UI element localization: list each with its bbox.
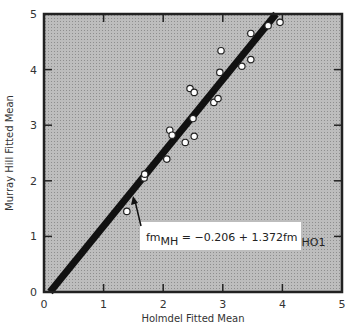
data-point <box>182 139 188 145</box>
scatter-chart: fmMH = −0.206 + 1.372fmHO1 Holmdel Fitte… <box>0 0 357 328</box>
data-point <box>164 156 170 162</box>
x-tick-label: 1 <box>100 298 107 311</box>
x-tick-label: 4 <box>279 298 286 311</box>
data-point <box>248 30 254 36</box>
y-axis-title: Murray Hill Fitted Mean <box>4 95 15 211</box>
data-point <box>191 133 197 139</box>
data-point <box>142 171 148 177</box>
x-tick-label: 3 <box>219 298 226 311</box>
plot-area <box>44 14 342 292</box>
y-tick-label: 0 <box>30 286 37 299</box>
data-point <box>215 95 221 101</box>
x-tick-label: 2 <box>160 298 167 311</box>
y-tick-label: 5 <box>30 8 37 21</box>
y-tick-label: 1 <box>30 230 37 243</box>
data-point <box>190 115 196 121</box>
data-point <box>239 63 245 69</box>
y-tick-label: 2 <box>30 175 37 188</box>
x-tick-label: 0 <box>41 298 48 311</box>
data-point <box>191 89 197 95</box>
y-tick-label: 3 <box>30 119 37 132</box>
data-point <box>217 69 223 75</box>
data-point <box>265 22 271 28</box>
data-point <box>169 132 175 138</box>
y-tick-label: 4 <box>30 64 37 77</box>
data-point <box>218 47 224 53</box>
data-point <box>124 208 130 214</box>
x-axis-title: Holmdel Fitted Mean <box>141 313 244 324</box>
x-tick-label: 5 <box>339 298 346 311</box>
data-point <box>277 19 283 25</box>
data-point <box>248 56 254 62</box>
